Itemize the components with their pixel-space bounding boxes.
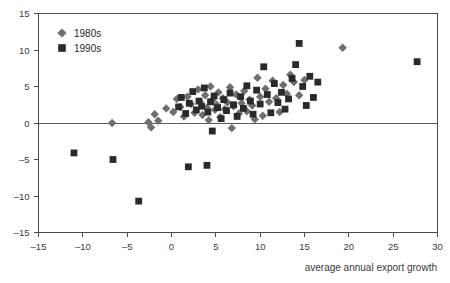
data-point-square [230, 101, 237, 108]
data-point-square [182, 110, 189, 117]
data-point-square [285, 96, 292, 103]
data-point-square [247, 98, 254, 105]
data-point-square [264, 91, 271, 98]
legend-marker-diamond [57, 28, 66, 37]
y-tick-label: –5 [19, 154, 30, 165]
data-point-diamond [162, 104, 170, 112]
data-point-square [260, 63, 267, 70]
legend: 1980s1990s [57, 28, 101, 54]
data-point-square [186, 100, 193, 107]
data-point-square [299, 83, 306, 90]
data-point-square [223, 107, 230, 114]
data-point-square [209, 128, 216, 135]
x-axis-title: average annual export growth [305, 262, 437, 273]
data-point-square [227, 90, 234, 97]
data-point-diamond [295, 91, 303, 99]
data-point-diamond [154, 117, 162, 125]
data-point-square [314, 79, 321, 86]
x-tick-label: 5 [213, 241, 218, 252]
legend-marker-square [58, 44, 66, 52]
data-point-square [201, 85, 208, 92]
data-point-square [218, 115, 225, 122]
data-point-diamond [279, 81, 287, 89]
data-point-square [253, 87, 260, 94]
y-tick-label: 0 [24, 118, 29, 129]
data-point-diamond [338, 44, 346, 52]
x-tick-label: 20 [344, 241, 355, 252]
x-tick-label: 30 [432, 241, 443, 252]
legend-label-1990s: 1990s [74, 43, 101, 54]
chart-canvas: –15–10–5051015202530–15–10–50510151980s1… [0, 0, 450, 283]
data-point-square [303, 102, 310, 109]
data-point-square [71, 150, 78, 157]
data-point-square [306, 73, 313, 80]
data-point-square [278, 89, 285, 96]
data-point-square [178, 94, 185, 101]
data-point-square [214, 104, 221, 111]
y-tick-label: 5 [24, 81, 29, 92]
data-point-square [271, 80, 278, 87]
data-point-diamond [256, 93, 264, 101]
data-point-square [204, 162, 211, 169]
data-point-square [204, 109, 211, 116]
series-1990s [71, 40, 421, 204]
data-point-square [185, 163, 192, 170]
x-tick-label: 0 [169, 241, 174, 252]
data-point-square [257, 101, 264, 108]
data-point-square [220, 96, 227, 103]
x-tick-label: 10 [255, 241, 266, 252]
y-tick-label: –10 [14, 191, 30, 202]
data-point-square [211, 93, 218, 100]
data-point-square [240, 105, 247, 112]
data-point-diamond [253, 74, 261, 82]
data-point-square [414, 58, 421, 65]
data-point-square [267, 109, 274, 116]
data-point-diamond [259, 112, 267, 120]
y-tick-label: –15 [14, 227, 30, 238]
data-point-diamond [265, 98, 273, 106]
data-point-diamond [108, 119, 116, 127]
data-point-square [234, 113, 241, 120]
data-point-square [310, 94, 317, 101]
series-1980s [108, 44, 347, 133]
data-point-square [110, 156, 117, 163]
data-point-square [175, 104, 182, 111]
data-point-square [292, 61, 299, 68]
data-point-square [243, 82, 250, 89]
data-point-diamond [150, 110, 158, 118]
data-point-square [282, 106, 289, 113]
data-point-square [198, 103, 205, 110]
x-tick-label: –5 [122, 241, 133, 252]
y-tick-label: 15 [19, 8, 30, 19]
x-tick-label: –15 [31, 241, 47, 252]
data-point-square [135, 198, 142, 205]
y-tick-label: 10 [19, 45, 30, 56]
data-point-square [275, 99, 282, 106]
data-point-square [250, 111, 257, 118]
x-tick-label: 25 [388, 241, 399, 252]
scatter-plot-figure: –15–10–5051015202530–15–10–50510151980s1… [0, 0, 450, 283]
data-point-square [296, 40, 303, 47]
data-point-diamond [228, 124, 236, 132]
x-tick-label: –10 [75, 241, 91, 252]
data-point-square [289, 75, 296, 82]
legend-label-1980s: 1980s [74, 28, 101, 39]
data-point-square [237, 93, 244, 100]
data-point-square [207, 98, 214, 105]
x-tick-label: 15 [299, 241, 310, 252]
data-point-square [189, 88, 196, 95]
